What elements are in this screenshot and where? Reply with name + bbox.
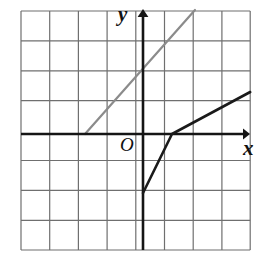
- plot-canvas: [0, 0, 261, 261]
- y-axis-label: y: [118, 4, 127, 25]
- black-line-series: [143, 92, 250, 193]
- gray-line: [85, 10, 195, 134]
- black-piecewise-line: [143, 92, 250, 193]
- origin-label: O: [120, 135, 134, 154]
- x-axis-label: x: [243, 138, 254, 159]
- gray-line-series: [85, 10, 195, 134]
- grid-lines: [21, 11, 250, 250]
- y-axis: [138, 9, 149, 250]
- coordinate-plot-figure: y x O: [0, 0, 261, 261]
- y-axis-arrow-icon: [138, 9, 149, 17]
